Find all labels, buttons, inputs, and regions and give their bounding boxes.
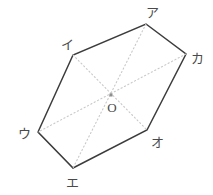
vertex-label-e: エ (66, 176, 79, 189)
vertex-label-o: オ (151, 136, 164, 149)
vertex-label-i: イ (61, 38, 74, 51)
vertex-label-ka: カ (191, 52, 204, 65)
figure-canvas (0, 0, 213, 195)
diagonal-i-o (73, 55, 147, 130)
vertex-label-a: ア (146, 6, 159, 19)
geometry-figure: ア カ オ エ ウ イ O (0, 0, 213, 195)
diagonal-ka-u (38, 54, 186, 132)
center-point-dot (110, 94, 113, 97)
center-point-label: O (107, 101, 116, 114)
vertex-label-u: ウ (18, 127, 31, 140)
